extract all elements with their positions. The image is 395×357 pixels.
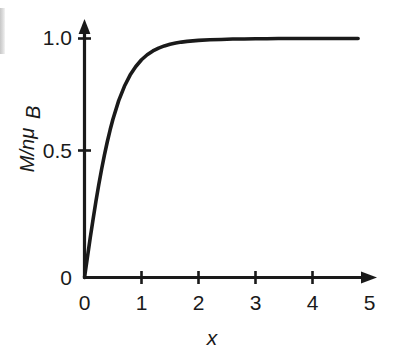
y-tick-label-0.5: 0.5 (43, 139, 72, 162)
y-tick-label-1.0: 1.0 (43, 26, 72, 49)
y-axis-title-main: M/nμ (16, 128, 38, 172)
x-tick-label-4: 4 (307, 291, 319, 314)
y-axis-title-subscript: B (22, 106, 44, 119)
y-axis-arrowhead (79, 19, 91, 34)
y-axis-title: M/nμ B (16, 106, 44, 172)
x-tick-label-2: 2 (193, 291, 205, 314)
x-axis-arrowhead (361, 271, 377, 283)
x-tick-label-1: 1 (136, 291, 148, 314)
chart-canvas: 0 0.5 1.0 0 1 2 3 4 5 x M/nμ B (0, 0, 395, 357)
x-tick-label-5: 5 (364, 291, 376, 314)
scan-edge-artifact (0, 8, 5, 54)
langevin-curve (85, 39, 359, 278)
x-axis (85, 271, 378, 284)
x-tick-label-3: 3 (250, 291, 262, 314)
magnetization-curve-figure: 0 0.5 1.0 0 1 2 3 4 5 x M/nμ B (0, 0, 395, 357)
x-tick-label-0: 0 (79, 291, 91, 314)
y-tick-label-0: 0 (60, 266, 72, 289)
x-axis-title: x (206, 326, 219, 349)
